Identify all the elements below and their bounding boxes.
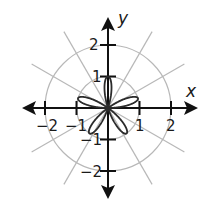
- axis-labels: x y −2 −1 1 2 2 1 −1 −2: [36, 8, 197, 181]
- tick-label-x-1: 1: [135, 117, 145, 135]
- tick-label-x-2: 2: [166, 117, 176, 135]
- tick-label-x-neg2: −2: [36, 117, 58, 135]
- tick-label-y-neg1: −1: [80, 131, 102, 149]
- tick-label-y-2: 2: [89, 36, 99, 54]
- x-axis-label: x: [185, 81, 197, 101]
- tick-label-y-neg2: −2: [80, 163, 102, 181]
- polar-rose-plot: x y −2 −1 1 2 2 1 −1 −2: [0, 0, 213, 208]
- y-axis-label: y: [117, 8, 129, 28]
- tick-label-y-1: 1: [92, 68, 102, 86]
